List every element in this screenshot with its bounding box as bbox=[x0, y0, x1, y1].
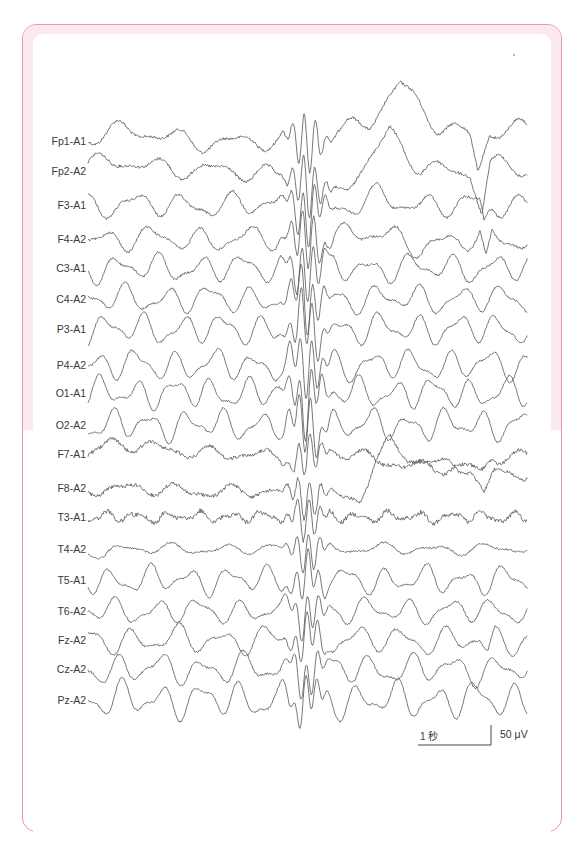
eeg-trace-c4-a2 bbox=[88, 264, 527, 335]
eeg-trace-fp2-a2 bbox=[88, 126, 527, 218]
eeg-trace-f3-a1 bbox=[88, 182, 527, 247]
time-scale-label: 1 秒 bbox=[420, 728, 438, 743]
eeg-traces bbox=[0, 0, 588, 842]
eeg-trace-pz-a2 bbox=[88, 676, 527, 729]
eeg-trace-p4-a2 bbox=[88, 339, 527, 399]
eeg-trace-f7-a1 bbox=[88, 434, 527, 476]
eeg-trace-fp1-a1 bbox=[88, 81, 527, 173]
amplitude-scale-label: 50 μV bbox=[500, 728, 528, 740]
eeg-trace-fz-a2 bbox=[88, 612, 527, 662]
eeg-trace-t4-a2 bbox=[88, 535, 527, 573]
eeg-trace-cz-a2 bbox=[88, 650, 527, 699]
eeg-trace-p3-a1 bbox=[88, 288, 527, 362]
eeg-trace-t6-a2 bbox=[88, 594, 527, 641]
